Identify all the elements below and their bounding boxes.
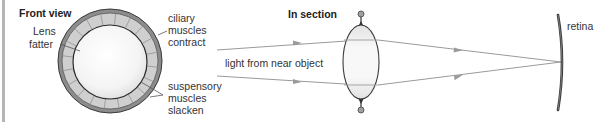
retina-label: retina <box>567 20 593 32</box>
lens-label-line2: fatter <box>29 38 53 50</box>
lens-front <box>73 25 147 99</box>
ciliary-label-line3: contract <box>168 36 205 48</box>
ciliary-label-line1: ciliary <box>168 12 196 24</box>
eye-accommodation-diagram: Front view Lens fatter ciliary muscles c… <box>0 0 615 122</box>
ray-lower-incoming <box>217 76 361 85</box>
lower-ciliary-knob <box>358 107 364 113</box>
lens-label-line1: Lens <box>33 25 56 37</box>
diagram-canvas: Front view Lens fatter ciliary muscles c… <box>0 0 615 122</box>
front-view: Front view Lens fatter ciliary muscles c… <box>19 7 225 116</box>
suspensory-label-line3: slacken <box>168 104 204 116</box>
lens-section <box>343 25 379 99</box>
suspensory-label: suspensory muscles slacken <box>168 80 225 116</box>
arrowhead-lower-outgoing <box>454 75 463 81</box>
ray-lower-outgoing <box>378 62 561 85</box>
front-view-title: Front view <box>19 7 72 19</box>
upper-ciliary-knob <box>358 11 364 17</box>
ciliary-leader-line <box>158 31 167 35</box>
suspensory-label-line2: muscles <box>168 92 207 104</box>
ray-upper-incoming <box>217 40 361 50</box>
arrowhead-upper-outgoing <box>454 48 463 53</box>
ray-upper-outgoing <box>378 40 561 62</box>
section-view-title: In section <box>288 8 337 20</box>
left-border <box>2 0 5 122</box>
section-view: In section light from near object retina <box>217 8 593 113</box>
suspensory-label-line1: suspensory <box>168 80 222 92</box>
ciliary-label: ciliary muscles contract <box>168 12 209 48</box>
light-label: light from near object <box>225 57 323 69</box>
lens-label: Lens fatter <box>29 25 59 50</box>
ciliary-label-line2: muscles <box>168 24 207 36</box>
